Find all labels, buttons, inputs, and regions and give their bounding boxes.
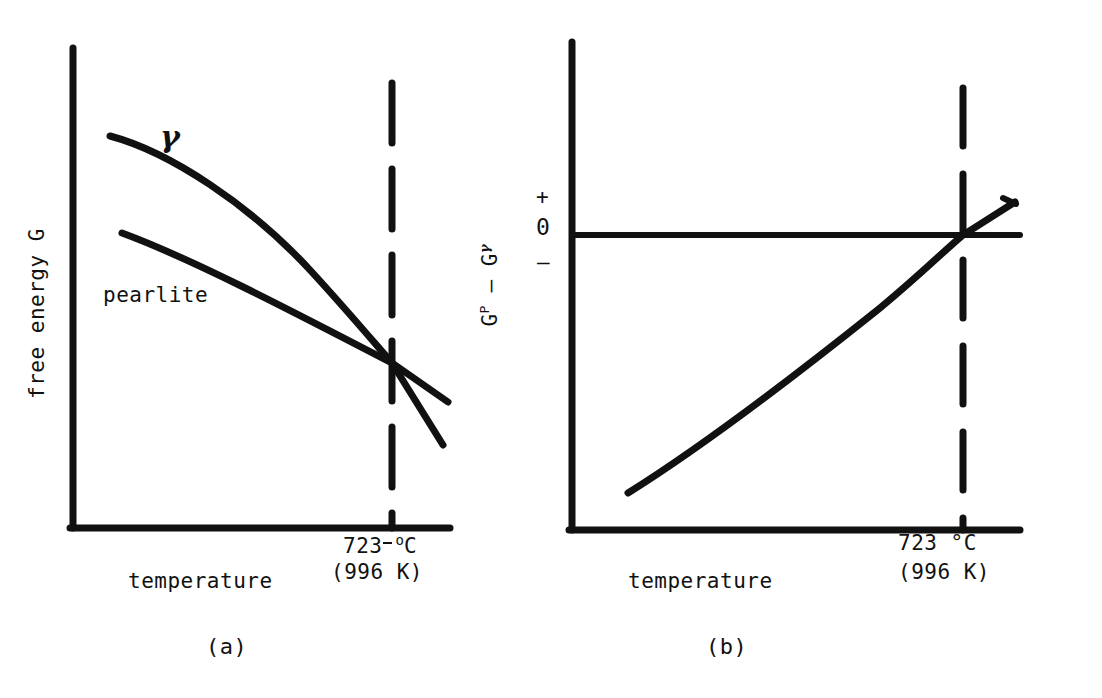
panel-b-y-axis-label-sup-gamma: γ	[477, 244, 492, 253]
panel-b-sign-marker-positive: +	[536, 187, 549, 208]
panel-a-tick-label-celsius: 723 oC	[343, 533, 417, 557]
panel-a-tick-number: 723	[343, 534, 382, 558]
panel-b-y-axis-label-g1: G	[478, 313, 502, 326]
panel-a-curve-label-pearlite: pearlite	[103, 285, 208, 306]
panel-b-sign-marker-zero: 0	[536, 216, 550, 239]
panel-b-tick-label-celsius: 723 °C	[898, 533, 977, 554]
panel-a-x-axis-label: temperature	[128, 571, 273, 592]
figure-root: free energy G γ pearlite 723 oC (996 K) …	[0, 0, 1102, 698]
figure-line-art	[0, 0, 1102, 698]
panel-b-curve-difference	[628, 202, 1015, 493]
panel-b-x-axis-label: temperature	[628, 571, 773, 592]
panel-b-y-axis-label: GP – Gγ	[478, 201, 501, 371]
panel-a-tick-unit: C	[404, 534, 417, 558]
panel-a-tick-label-kelvin: (996 K)	[331, 562, 423, 583]
panel-a-y-axis-label: free energy G	[27, 214, 48, 414]
degree-underlined-icon: o	[382, 533, 404, 557]
panel-b-caption: (b)	[706, 636, 747, 658]
panel-b-sign-marker-negative: –	[537, 252, 550, 273]
panel-a-curve-label-gamma: γ	[160, 122, 180, 152]
panel-b-y-axis-label-sup-p: P	[477, 306, 492, 314]
panel-b-y-axis-label-g2: G	[478, 253, 502, 266]
panel-a-caption: (a)	[206, 636, 247, 658]
panel-b-y-axis-label-dash: –	[478, 266, 502, 305]
panel-b-tick-label-kelvin: (996 K)	[898, 562, 990, 583]
